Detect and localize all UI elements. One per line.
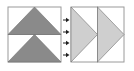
arrow-icon [63, 18, 70, 22]
arrow-group [63, 18, 70, 57]
right-panel [71, 7, 124, 62]
transformation-diagram [0, 0, 134, 71]
arrow-icon [63, 53, 70, 57]
arrow-icon [63, 41, 70, 45]
arrow-icon [63, 30, 70, 34]
left-panel [8, 7, 61, 62]
